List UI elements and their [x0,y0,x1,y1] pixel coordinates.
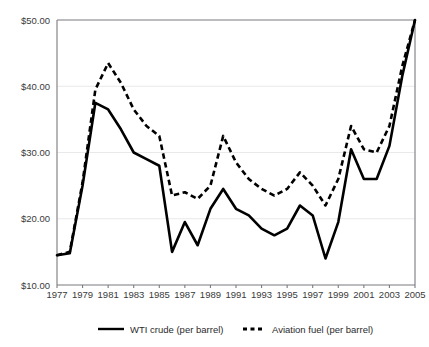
x-tick-label: 1989 [200,289,221,300]
x-tick-label: 1977 [46,289,67,300]
x-tick-label: 1997 [302,289,323,300]
series-line-wti-crude [57,20,415,259]
x-tick-label: 1987 [174,289,195,300]
x-tick-label: 2005 [404,289,425,300]
y-tick-label: $50.00 [21,15,50,26]
x-tick-label: 1999 [328,289,349,300]
x-tick-label: 2003 [379,289,400,300]
y-tick-label: $30.00 [21,147,50,158]
x-tick-label: 1993 [251,289,272,300]
data-series-group [57,20,415,259]
price-line-chart: $50.00$40.00$30.00$20.00$10.00 197719791… [0,0,429,347]
x-tick-label: 1991 [225,289,246,300]
legend-label-wti-crude: WTI crude (per barrel) [130,324,223,335]
x-tick-label: 1979 [72,289,93,300]
y-axis-tick-labels: $50.00$40.00$30.00$20.00$10.00 [21,15,50,291]
chart-legend: WTI crude (per barrel) Aviation fuel (pe… [98,324,373,335]
y-tick-label: $20.00 [21,213,50,224]
x-tick-label: 1981 [98,289,119,300]
x-tick-label: 1985 [149,289,170,300]
x-tick-label: 1983 [123,289,144,300]
series-line-aviation-fuel [57,20,415,255]
chart-canvas: $50.00$40.00$30.00$20.00$10.00 197719791… [0,0,429,347]
legend-label-aviation-fuel: Aviation fuel (per barrel) [272,324,373,335]
y-tick-label: $40.00 [21,81,50,92]
x-tick-label: 2001 [353,289,374,300]
x-tick-label: 1995 [277,289,298,300]
y-gridlines [57,86,415,219]
x-axis-tick-labels: 1977197919811983198519871989199119931995… [46,289,425,300]
